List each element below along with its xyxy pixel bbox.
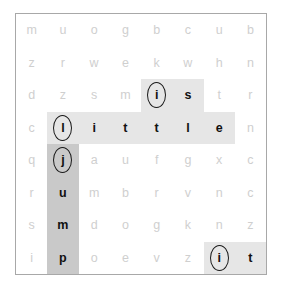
grid-letter: i <box>79 122 110 135</box>
grid-cell-inner: n <box>204 209 235 242</box>
grid-letter: k <box>172 219 203 232</box>
grid-cell[interactable]: k <box>172 209 203 242</box>
grid-letter: g <box>141 219 172 232</box>
grid-cell[interactable]: e <box>110 47 141 80</box>
grid-cell[interactable]: r <box>141 177 172 210</box>
grid-letter: z <box>235 219 266 232</box>
grid-cell[interactable]: v <box>172 177 203 210</box>
grid-cell[interactable]: g <box>110 14 141 47</box>
grid-cell[interactable]: i <box>141 79 172 112</box>
grid-letter: n <box>204 187 235 200</box>
grid-cell[interactable]: t <box>204 79 235 112</box>
grid-cell-inner: b <box>235 14 266 47</box>
grid-row: qjaufgxc <box>16 144 266 177</box>
grid-row: zrwekwhn <box>16 47 266 80</box>
grid-cell[interactable]: n <box>235 47 266 80</box>
grid-cell[interactable]: r <box>235 79 266 112</box>
grid-cell[interactable]: o <box>79 14 110 47</box>
grid-cell[interactable]: j <box>47 144 78 177</box>
grid-cell[interactable]: l <box>47 112 78 145</box>
grid-cell[interactable]: b <box>110 177 141 210</box>
grid-letter: n <box>235 122 266 135</box>
grid-cell[interactable]: w <box>79 47 110 80</box>
grid-cell[interactable]: o <box>110 209 141 242</box>
grid-cell[interactable]: l <box>172 112 203 145</box>
grid-cell-inner: n <box>235 47 266 80</box>
grid-cell-inner: e <box>204 112 235 145</box>
grid-cell[interactable]: p <box>47 242 78 275</box>
grid-cell[interactable]: b <box>235 14 266 47</box>
grid-cell[interactable]: s <box>79 79 110 112</box>
grid-cell[interactable]: z <box>47 79 78 112</box>
grid-cell[interactable]: g <box>172 144 203 177</box>
grid-letter: w <box>172 57 203 70</box>
grid-cell[interactable]: c <box>16 112 47 145</box>
grid-cell[interactable]: z <box>172 242 203 275</box>
grid-cell[interactable]: m <box>79 177 110 210</box>
grid-letter: t <box>110 122 141 135</box>
grid-cell[interactable]: d <box>79 209 110 242</box>
grid-cell[interactable]: k <box>141 47 172 80</box>
grid-cell[interactable]: u <box>47 14 78 47</box>
grid-cell[interactable]: t <box>235 242 266 275</box>
grid-letter: h <box>204 57 235 70</box>
grid-cell[interactable]: z <box>235 209 266 242</box>
grid-cell-inner: b <box>110 177 141 210</box>
grid-cell[interactable]: n <box>235 112 266 145</box>
grid-cell[interactable]: q <box>16 144 47 177</box>
grid-cell[interactable]: u <box>110 144 141 177</box>
grid-cell[interactable]: m <box>16 14 47 47</box>
grid-cell-inner: e <box>110 242 141 275</box>
grid-cell-inner: o <box>79 14 110 47</box>
grid-cell-inner: d <box>16 79 47 112</box>
letter-grid-table: muogbcubzrwekwhndzsmistrclittlenqjaufgxc… <box>16 14 266 274</box>
grid-row: muogbcub <box>16 14 266 47</box>
grid-cell[interactable]: d <box>16 79 47 112</box>
grid-cell[interactable]: i <box>79 112 110 145</box>
grid-cell[interactable]: e <box>110 242 141 275</box>
grid-cell-inner: p <box>47 242 78 275</box>
grid-cell[interactable]: a <box>79 144 110 177</box>
grid-cell-inner: o <box>79 242 110 275</box>
grid-cell-inner: l <box>172 112 203 145</box>
grid-cell[interactable]: b <box>141 14 172 47</box>
grid-cell[interactable]: e <box>204 112 235 145</box>
grid-cell[interactable]: r <box>47 47 78 80</box>
grid-cell[interactable]: t <box>141 112 172 145</box>
grid-cell[interactable]: u <box>204 14 235 47</box>
grid-cell[interactable]: c <box>172 14 203 47</box>
grid-cell[interactable]: t <box>110 112 141 145</box>
grid-letter: c <box>16 122 47 135</box>
grid-cell[interactable]: r <box>16 177 47 210</box>
grid-cell[interactable]: z <box>16 47 47 80</box>
grid-cell[interactable]: w <box>172 47 203 80</box>
grid-cell-inner: e <box>110 47 141 80</box>
grid-cell[interactable]: s <box>172 79 203 112</box>
grid-cell[interactable]: i <box>204 242 235 275</box>
grid-cell[interactable]: v <box>141 242 172 275</box>
grid-row: smdogknz <box>16 209 266 242</box>
grid-letter: m <box>47 219 78 232</box>
grid-cell[interactable]: m <box>47 209 78 242</box>
grid-cell[interactable]: u <box>47 177 78 210</box>
grid-letter: z <box>16 57 47 70</box>
grid-letter: c <box>235 154 266 167</box>
grid-letter: r <box>47 57 78 70</box>
grid-cell[interactable]: m <box>110 79 141 112</box>
grid-cell[interactable]: o <box>79 242 110 275</box>
grid-cell[interactable]: x <box>204 144 235 177</box>
grid-letter: k <box>141 57 172 70</box>
grid-cell[interactable]: g <box>141 209 172 242</box>
grid-letter: s <box>79 89 110 102</box>
grid-cell[interactable]: h <box>204 47 235 80</box>
grid-cell[interactable]: c <box>235 177 266 210</box>
grid-cell[interactable]: i <box>16 242 47 275</box>
grid-letter: w <box>79 57 110 70</box>
grid-cell[interactable]: n <box>204 177 235 210</box>
grid-cell[interactable]: f <box>141 144 172 177</box>
grid-cell[interactable]: c <box>235 144 266 177</box>
grid-cell[interactable]: n <box>204 209 235 242</box>
grid-letter: m <box>16 24 47 37</box>
grid-cell[interactable]: s <box>16 209 47 242</box>
grid-cell-inner: r <box>47 47 78 80</box>
